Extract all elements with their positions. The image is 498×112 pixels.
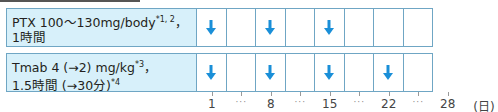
dose-cells	[197, 53, 433, 92]
top-rule	[0, 0, 140, 2]
day-cell	[404, 8, 434, 47]
punct: ，	[144, 60, 157, 75]
regimen-row-ptx: PTX 100～130mg/body*1, 2， 1時間	[6, 8, 433, 47]
regimen-label: Tmab 4 (→2) mg/kg*3， 1.5時間 (→30分)*4	[6, 53, 197, 92]
punct: ，	[175, 15, 188, 30]
dose-cells	[197, 8, 433, 47]
day-cell	[315, 8, 345, 47]
day-cell	[227, 8, 257, 47]
footnote-ref: *1, 2	[156, 15, 175, 24]
axis-tick	[330, 92, 331, 96]
day-cell	[197, 8, 227, 47]
axis-label: 15	[322, 97, 337, 111]
axis-label: ···	[353, 97, 365, 107]
arrow-down-icon	[265, 20, 275, 35]
arrow-down-icon	[383, 65, 393, 80]
day-cell	[256, 8, 286, 47]
day-cell	[404, 53, 434, 92]
infusion-time-text: 1時間	[12, 30, 46, 45]
footnote-ref: *4	[111, 78, 120, 87]
axis-unit: (日)	[473, 97, 494, 112]
drug-dose-text: Tmab 4 (→2) mg/kg	[12, 60, 135, 75]
axis-tick	[448, 92, 449, 96]
arrow-down-icon	[265, 65, 275, 80]
axis-label: ···	[235, 97, 247, 107]
day-cell	[227, 53, 257, 92]
arrow-down-icon	[206, 20, 216, 35]
axis-tick	[212, 92, 213, 96]
day-cell	[374, 8, 404, 47]
axis-label: 22	[381, 97, 396, 111]
arrow-down-icon	[324, 65, 334, 80]
axis-tick	[418, 92, 419, 96]
regimen-label: PTX 100～130mg/body*1, 2， 1時間	[6, 8, 197, 47]
infusion-time-text: 1.5時間 (→30分)	[12, 78, 111, 93]
axis-label: ···	[294, 97, 306, 107]
regimen-row-tmab: Tmab 4 (→2) mg/kg*3， 1.5時間 (→30分)*4	[6, 53, 433, 92]
axis-tick	[300, 92, 301, 96]
axis-tick	[359, 92, 360, 96]
footnote-ref: *3	[135, 60, 144, 69]
day-cell	[286, 53, 316, 92]
axis-tick	[241, 92, 242, 96]
axis-label: 28	[440, 97, 455, 111]
day-cell	[197, 53, 227, 92]
day-axis: 1···8···15···22···28(日)	[0, 92, 498, 112]
axis-label: ···	[412, 97, 424, 107]
day-cell	[256, 53, 286, 92]
drug-dose-text: PTX 100～130mg/body	[12, 15, 156, 30]
axis-label: 1	[208, 97, 216, 111]
day-cell	[345, 8, 375, 47]
day-cell	[286, 8, 316, 47]
axis-tick	[389, 92, 390, 96]
axis-label: 8	[267, 97, 275, 111]
arrow-down-icon	[324, 20, 334, 35]
arrow-down-icon	[206, 65, 216, 80]
day-cell	[345, 53, 375, 92]
axis-tick	[271, 92, 272, 96]
day-cell	[374, 53, 404, 92]
day-cell	[315, 53, 345, 92]
